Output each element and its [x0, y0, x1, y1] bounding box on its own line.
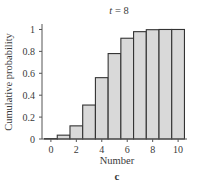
- bar-5: [108, 54, 121, 139]
- panel-label: c: [115, 170, 120, 182]
- y-axis-title: Cumulative probability: [3, 32, 14, 130]
- x-tick-label: 0: [48, 144, 53, 155]
- bars-group: [45, 29, 185, 139]
- y-tick-label: 0.8: [23, 46, 36, 57]
- y-tick-label: 0.6: [23, 68, 36, 79]
- bar-6: [121, 38, 134, 139]
- bar-2: [70, 126, 83, 139]
- title-equals: =: [112, 5, 123, 16]
- title-value: 8: [123, 5, 128, 16]
- bar-4: [95, 78, 108, 139]
- x-tick-label: 6: [125, 144, 130, 155]
- y-tick-label: 0: [30, 134, 35, 145]
- bar-1: [57, 135, 70, 139]
- x-tick-label: 4: [99, 144, 104, 155]
- bar-3: [83, 105, 96, 139]
- y-tick-label: 0.4: [23, 90, 36, 101]
- bar-7: [134, 32, 147, 139]
- chart-title: t = 8: [109, 5, 128, 16]
- x-tick-label: 8: [150, 144, 155, 155]
- bar-8: [146, 30, 159, 139]
- x-axis-title: Number: [100, 155, 135, 166]
- y-tick-label: 0.2: [23, 112, 36, 123]
- y-ticks-group: 00.20.40.60.81: [23, 24, 43, 145]
- x-tick-label: 2: [74, 144, 79, 155]
- y-tick-label: 1: [30, 24, 35, 35]
- x-ticks-group: 0246810: [48, 139, 183, 155]
- cumulative-probability-chart: t = 8 00.20.40.60.81 0246810 Cumulative …: [0, 0, 197, 191]
- bar-9: [159, 29, 172, 139]
- x-tick-label: 10: [173, 144, 183, 155]
- bar-10: [172, 29, 185, 139]
